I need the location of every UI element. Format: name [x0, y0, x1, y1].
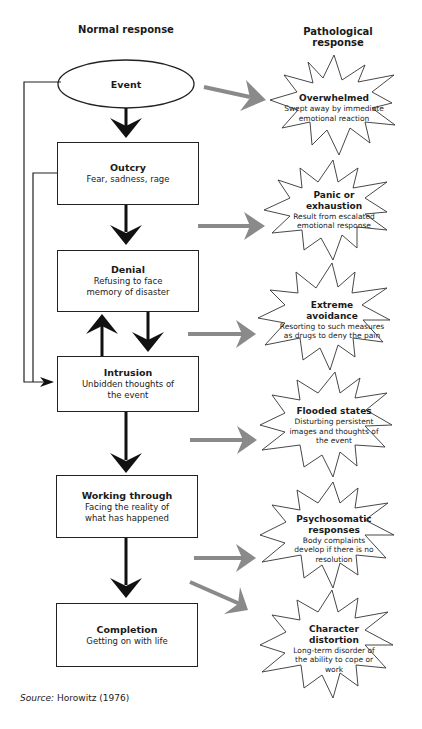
- stage-title: Working through: [82, 490, 173, 502]
- path-desc: Body complaints develop if there is no r…: [294, 536, 374, 565]
- path-title: Panic or exhaustion: [299, 190, 369, 212]
- normal-response-heading: Normal response: [76, 24, 176, 35]
- feedback-lines: [24, 82, 61, 382]
- source-label: Source:: [20, 693, 54, 703]
- stage-outcry: Outcry Fear, sadness, rage: [57, 142, 199, 205]
- stage-title: Intrusion: [104, 367, 153, 379]
- path-desc: Result from escalated emotional response: [289, 212, 379, 231]
- stage-desc: Getting on with life: [86, 636, 167, 647]
- gray-arrows: [188, 80, 266, 614]
- stage-title: Event: [111, 79, 141, 90]
- path-title: Character distortion: [299, 624, 369, 646]
- stage-intrusion: Intrusion Unbidden thoughts of the event: [57, 356, 199, 412]
- stage-completion: Completion Getting on with life: [56, 603, 198, 667]
- source-text: Horowitz (1976): [54, 693, 129, 703]
- path-desc: Swept away by immediate emotional reacti…: [284, 104, 384, 123]
- pathological-response-heading: Pathological response: [278, 26, 398, 48]
- path-title: Psychosomatic responses: [289, 514, 379, 536]
- path-psychosomatic: Psychosomatic responses Body complaints …: [280, 514, 388, 564]
- path-desc: Disturbing persistent images and thought…: [289, 417, 379, 446]
- path-flooded: Flooded states Disturbing persistent ima…: [282, 405, 386, 447]
- path-overwhelmed: Overwhelmed Swept away by immediate emot…: [282, 87, 386, 129]
- path-title: Flooded states: [296, 406, 371, 417]
- stage-desc: Fear, sadness, rage: [87, 174, 170, 185]
- path-title: Extreme avoidance: [297, 300, 367, 322]
- stage-title: Denial: [111, 264, 145, 276]
- source-caption: Source: Horowitz (1976): [20, 693, 129, 703]
- path-title: Overwhelmed: [299, 93, 369, 104]
- path-character: Character distortion Long-term disorder …: [280, 624, 388, 674]
- path-avoidance: Extreme avoidance Resorting to such meas…: [276, 296, 388, 344]
- stage-desc: Facing the reality of what has happened: [79, 502, 175, 524]
- stage-event: Event: [58, 60, 194, 108]
- stage-working-through: Working through Facing the reality of wh…: [56, 475, 198, 538]
- path-desc: Resorting to such measures as drugs to d…: [276, 322, 388, 341]
- stage-desc: Refusing to face memory of disaster: [78, 276, 178, 298]
- path-desc: Long-term disorder of the ability to cop…: [289, 646, 379, 675]
- stage-title: Outcry: [110, 162, 146, 174]
- stage-desc: Unbidden thoughts of the event: [78, 379, 178, 401]
- stage-denial: Denial Refusing to face memory of disast…: [57, 250, 199, 312]
- stage-title: Completion: [97, 624, 158, 636]
- path-panic: Panic or exhaustion Result from escalate…: [284, 188, 384, 232]
- starbursts: [258, 55, 395, 698]
